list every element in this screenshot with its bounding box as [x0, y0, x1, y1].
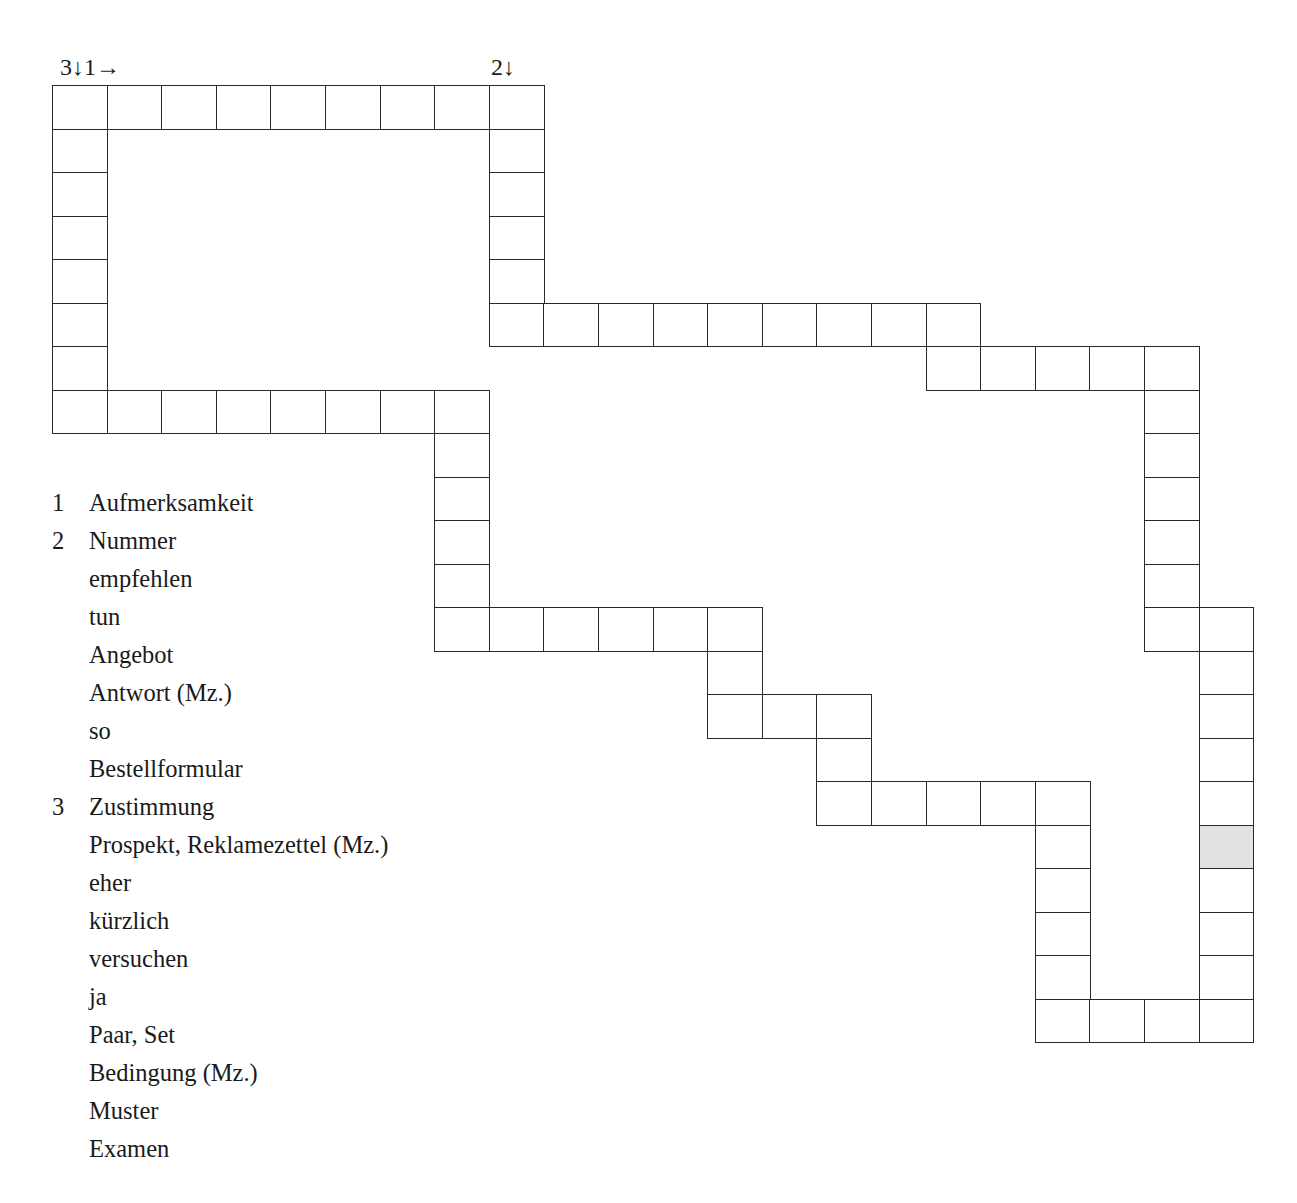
crossword-cell[interactable] — [1035, 999, 1091, 1044]
crossword-cell[interactable] — [52, 390, 108, 435]
crossword-cell[interactable] — [1144, 390, 1200, 435]
crossword-cell[interactable] — [434, 477, 490, 522]
crossword-cell[interactable] — [816, 738, 872, 783]
crossword-cell[interactable] — [816, 303, 872, 348]
crossword-cell[interactable] — [1199, 912, 1255, 957]
crossword-cell[interactable] — [216, 85, 272, 130]
crossword-cell[interactable] — [1144, 433, 1200, 478]
crossword-cell[interactable] — [598, 607, 654, 652]
crossword-cell[interactable] — [489, 216, 545, 261]
crossword-cell[interactable] — [489, 129, 545, 174]
clue-list: 1Aufmerksamkeit 2Nummer empfehlen tun An… — [52, 484, 388, 1168]
clue-item: empfehlen — [52, 560, 388, 598]
crossword-cell[interactable] — [52, 85, 108, 130]
crossword-cell[interactable] — [380, 85, 436, 130]
crossword-cell[interactable] — [1035, 825, 1091, 870]
crossword-cell-solution[interactable] — [1199, 825, 1255, 870]
crossword-cell[interactable] — [980, 781, 1036, 826]
crossword-cell[interactable] — [707, 651, 763, 696]
crossword-cell[interactable] — [434, 433, 490, 478]
crossword-cell[interactable] — [107, 390, 163, 435]
crossword-cell[interactable] — [434, 85, 490, 130]
crossword-cell[interactable] — [489, 172, 545, 217]
crossword-cell[interactable] — [1144, 477, 1200, 522]
crossword-cell[interactable] — [325, 390, 381, 435]
crossword-cell[interactable] — [1199, 607, 1255, 652]
crossword-cell[interactable] — [52, 259, 108, 304]
crossword-cell[interactable] — [380, 390, 436, 435]
clue-number — [52, 1092, 89, 1130]
crossword-cell[interactable] — [52, 303, 108, 348]
crossword-cell[interactable] — [926, 781, 982, 826]
crossword-cell[interactable] — [434, 607, 490, 652]
crossword-cell[interactable] — [434, 390, 490, 435]
crossword-cell[interactable] — [270, 390, 326, 435]
crossword-cell[interactable] — [434, 520, 490, 565]
clue-item: Antwort (Mz.) — [52, 674, 388, 712]
crossword-cell[interactable] — [1144, 520, 1200, 565]
crossword-cell[interactable] — [52, 172, 108, 217]
crossword-cell[interactable] — [980, 346, 1036, 391]
crossword-cell[interactable] — [1144, 607, 1200, 652]
clue-item: 3Zustimmung — [52, 788, 388, 826]
crossword-cell[interactable] — [1089, 999, 1145, 1044]
clue-item: Angebot — [52, 636, 388, 674]
crossword-cell[interactable] — [1199, 868, 1255, 913]
crossword-cell[interactable] — [1199, 955, 1255, 1000]
crossword-cell[interactable] — [707, 694, 763, 739]
crossword-cell[interactable] — [1035, 955, 1091, 1000]
crossword-cell[interactable] — [1144, 999, 1200, 1044]
crossword-cell[interactable] — [52, 346, 108, 391]
crossword-cell[interactable] — [926, 346, 982, 391]
crossword-cell[interactable] — [489, 259, 545, 304]
crossword-cell[interactable] — [1199, 694, 1255, 739]
clue-item: 1Aufmerksamkeit — [52, 484, 388, 522]
crossword-cell[interactable] — [1144, 346, 1200, 391]
crossword-cell[interactable] — [871, 781, 927, 826]
crossword-cell[interactable] — [489, 303, 545, 348]
crossword-cell[interactable] — [1035, 868, 1091, 913]
clue-item: tun — [52, 598, 388, 636]
clue-number — [52, 674, 89, 712]
crossword-cell[interactable] — [107, 85, 163, 130]
crossword-cell[interactable] — [489, 85, 545, 130]
crossword-cell[interactable] — [325, 85, 381, 130]
crossword-cell[interactable] — [707, 607, 763, 652]
crossword-cell[interactable] — [161, 390, 217, 435]
crossword-cell[interactable] — [871, 303, 927, 348]
crossword-cell[interactable] — [1199, 738, 1255, 783]
crossword-cell[interactable] — [762, 694, 818, 739]
crossword-cell[interactable] — [598, 303, 654, 348]
crossword-cell[interactable] — [816, 781, 872, 826]
crossword-cell[interactable] — [52, 216, 108, 261]
crossword-cell[interactable] — [1144, 564, 1200, 609]
crossword-cell[interactable] — [543, 303, 599, 348]
crossword-cell[interactable] — [1089, 346, 1145, 391]
crossword-cell[interactable] — [653, 607, 709, 652]
crossword-cell[interactable] — [489, 607, 545, 652]
crossword-cell[interactable] — [270, 85, 326, 130]
crossword-cell[interactable] — [1035, 912, 1091, 957]
crossword-cell[interactable] — [216, 390, 272, 435]
crossword-cell[interactable] — [1199, 651, 1255, 696]
crossword-cell[interactable] — [161, 85, 217, 130]
clue-item: Bestellformular — [52, 750, 388, 788]
clue-text: kürzlich — [89, 902, 169, 940]
crossword-cell[interactable] — [816, 694, 872, 739]
crossword-cell[interactable] — [707, 303, 763, 348]
crossword-cell[interactable] — [926, 303, 982, 348]
crossword-cell[interactable] — [1199, 999, 1255, 1044]
clue-item: kürzlich — [52, 902, 388, 940]
crossword-cell[interactable] — [1035, 781, 1091, 826]
crossword-cell[interactable] — [52, 129, 108, 174]
crossword-cell[interactable] — [1199, 781, 1255, 826]
clue-number — [52, 560, 89, 598]
crossword-cell[interactable] — [543, 607, 599, 652]
clue-item: eher — [52, 864, 388, 902]
crossword-cell[interactable] — [653, 303, 709, 348]
clue-text: Examen — [89, 1130, 169, 1168]
crossword-cell[interactable] — [434, 564, 490, 609]
crossword-cell[interactable] — [762, 303, 818, 348]
clue-text: Aufmerksamkeit — [89, 484, 254, 522]
crossword-cell[interactable] — [1035, 346, 1091, 391]
